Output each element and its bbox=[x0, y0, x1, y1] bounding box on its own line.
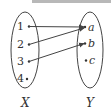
set-y-elements: a b c bbox=[84, 21, 95, 68]
set-x-ellipse bbox=[11, 12, 39, 88]
element-b-dot bbox=[84, 42, 86, 44]
element-4-dot bbox=[26, 78, 28, 80]
arrow-3-to-b bbox=[29, 44, 84, 62]
mapping-diagram: 1 2 3 4 a b c X Y bbox=[0, 0, 111, 112]
element-4: 4 bbox=[17, 72, 24, 85]
element-a-dot bbox=[84, 26, 86, 28]
element-b: b bbox=[88, 37, 95, 50]
element-c: c bbox=[89, 54, 95, 67]
set-y-label: Y bbox=[86, 96, 95, 110]
set-x-elements: 1 2 3 4 bbox=[17, 20, 30, 85]
arrow-1-to-a bbox=[29, 27, 84, 28]
element-3: 3 bbox=[17, 55, 24, 68]
set-x-label: X bbox=[20, 96, 30, 110]
element-1: 1 bbox=[17, 20, 24, 33]
element-c-dot bbox=[85, 59, 87, 61]
element-a: a bbox=[88, 21, 95, 34]
element-2: 2 bbox=[17, 38, 24, 51]
